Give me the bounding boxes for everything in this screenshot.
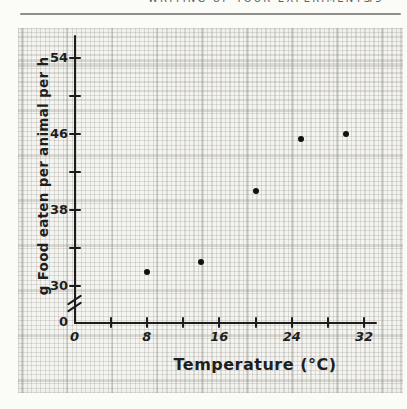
x-tick-label: 16 [206, 329, 232, 344]
y-tick [69, 209, 81, 211]
x-tick [146, 317, 148, 328]
x-tick [110, 317, 112, 328]
y-axis-title: g Food eaten per animal per h [35, 56, 51, 296]
y-tick [69, 247, 81, 249]
y-origin-label: 0 [50, 314, 68, 329]
running-header-text: WRITING UP YOUR EXPERIMENTS [148, 0, 372, 4]
x-tick [218, 317, 220, 328]
data-point [298, 136, 304, 142]
x-axis-line [74, 322, 377, 324]
y-tick [69, 285, 81, 287]
x-tick [291, 317, 293, 328]
y-axis-line [74, 35, 76, 324]
header-rule [20, 13, 401, 15]
y-tick [69, 133, 81, 135]
data-point [253, 188, 259, 194]
y-tick [69, 171, 81, 173]
x-tick-label: 8 [134, 329, 160, 344]
x-tick-label: 32 [351, 329, 377, 344]
x-axis-title: Temperature (°C) [160, 355, 350, 374]
x-tick [255, 317, 257, 328]
data-point [144, 269, 150, 275]
x-tick [363, 317, 365, 328]
page-number: 75 [368, 0, 383, 4]
x-tick-label: 0 [62, 329, 88, 344]
x-tick [327, 317, 329, 328]
x-tick-label: 24 [279, 329, 305, 344]
x-tick [182, 317, 184, 328]
